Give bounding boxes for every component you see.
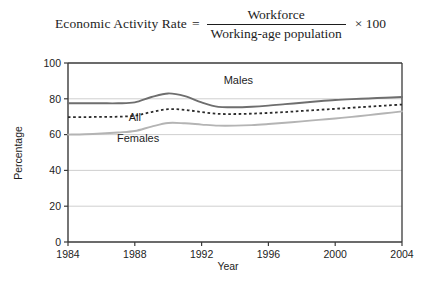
formula-lead-text: Economic Activity Rate <box>55 16 187 32</box>
y-axis-ticks-group: 020406080100 <box>43 57 68 248</box>
x-tick-label-1984: 1984 <box>56 248 80 260</box>
economic-activity-rate-chart: 020406080100 198419881992199620002004 Ma… <box>0 48 441 284</box>
formula-equals-sign: = <box>192 16 200 32</box>
x-tick-label-1988: 1988 <box>123 248 147 260</box>
chart-svg: 020406080100 198419881992199620002004 Ma… <box>0 48 441 284</box>
economic-activity-rate-formula: Economic Activity Rate = Workforce Worki… <box>0 0 441 48</box>
series-annotation-all: All <box>129 111 141 123</box>
y-tick-label-80: 80 <box>49 93 61 105</box>
x-tick-label-1992: 1992 <box>190 248 214 260</box>
x-axis-title: Year <box>217 260 239 272</box>
series-line-males <box>68 93 402 107</box>
x-axis-ticks-group: 198419881992199620002004 <box>56 242 414 260</box>
y-tick-label-100: 100 <box>43 57 61 69</box>
formula-fraction: Workforce Working-age population <box>207 7 346 41</box>
series-group <box>68 93 402 134</box>
formula-multiplier: × 100 <box>355 16 386 32</box>
plot-frame <box>68 63 402 242</box>
x-tick-label-1996: 1996 <box>257 248 281 260</box>
y-tick-label-40: 40 <box>49 164 61 176</box>
formula-numerator: Workforce <box>241 7 310 24</box>
y-tick-label-60: 60 <box>49 128 61 140</box>
formula-denominator: Working-age population <box>207 25 346 42</box>
y-axis-title: Percentage <box>12 126 24 180</box>
formula-row: Economic Activity Rate = Workforce Worki… <box>55 7 386 41</box>
y-tick-label-0: 0 <box>55 236 61 248</box>
x-tick-label-2000: 2000 <box>324 248 348 260</box>
series-annotation-females: Females <box>117 132 160 144</box>
y-tick-label-20: 20 <box>49 200 61 212</box>
series-annotations-group: MalesAllFemales <box>117 74 253 144</box>
x-tick-label-2004: 2004 <box>390 248 414 260</box>
series-annotation-males: Males <box>224 74 254 86</box>
